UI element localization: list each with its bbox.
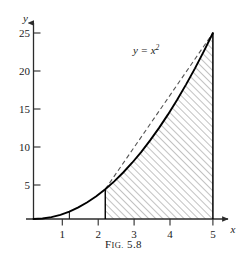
shaded-region [105, 33, 213, 219]
curve-label-base: y = x [132, 44, 156, 56]
curve-label-exponent: 2 [156, 43, 160, 52]
caption-number: 5.8 [127, 238, 142, 250]
x-axis-ticks [62, 219, 213, 226]
y-tick-label-15: 15 [19, 103, 31, 115]
y-axis-ticks [34, 33, 41, 185]
y-tick-label-20: 20 [19, 65, 31, 77]
figure-caption: FIG. 5.8 [0, 238, 247, 250]
plot-area: 25 20 15 10 5 1 2 3 4 5 y x y = x2 [0, 0, 247, 262]
figure-container: 25 20 15 10 5 1 2 3 4 5 y x y = x2 FIG. … [0, 0, 247, 262]
y-axis-label: y [22, 12, 28, 24]
y-tick-label-10: 10 [19, 141, 31, 153]
y-tick-label-5: 5 [25, 179, 31, 191]
x-axis-label: x [230, 223, 236, 235]
caption-small-caps: IG. [112, 240, 124, 250]
curve-label-y-equals-x-squared: y = x2 [132, 43, 160, 56]
svg-text:y = x2: y = x2 [132, 43, 160, 56]
y-tick-label-25: 25 [19, 27, 31, 39]
